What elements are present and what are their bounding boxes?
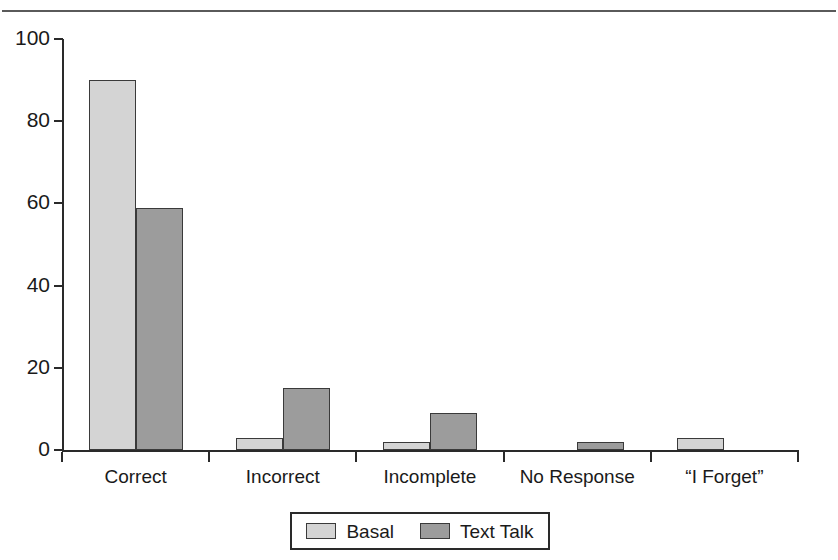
bar-basal-incorrect xyxy=(236,438,283,450)
x-axis-category-label: Incomplete xyxy=(356,466,503,488)
legend-entry-basal: Basal xyxy=(306,522,394,541)
bar-basal-i-forget xyxy=(677,438,724,450)
legend-entry-text-talk: Text Talk xyxy=(420,522,534,541)
legend-label-basal: Basal xyxy=(346,522,394,541)
y-axis-tick xyxy=(54,202,63,204)
y-axis-line xyxy=(62,39,64,451)
x-axis-tick xyxy=(650,452,652,462)
x-axis-tick xyxy=(61,452,63,462)
y-axis-tick xyxy=(54,120,63,122)
x-axis-category-label: Correct xyxy=(62,466,209,488)
y-axis-tick xyxy=(54,38,63,40)
x-axis-tick xyxy=(503,452,505,462)
legend-swatch-text-talk xyxy=(420,523,450,539)
y-axis-tick-label: 80 xyxy=(4,109,50,130)
bar-text-talk-incorrect xyxy=(283,388,330,450)
x-axis-tick xyxy=(797,452,799,462)
x-axis-category-label: Incorrect xyxy=(209,466,356,488)
bar-chart-plot-area: 020406080100 CorrectIncorrectIncompleteN… xyxy=(0,0,838,470)
bar-text-talk-no-response xyxy=(577,442,624,450)
y-axis-tick xyxy=(54,285,63,287)
x-axis-tick xyxy=(355,452,357,462)
y-axis-tick xyxy=(54,449,63,451)
y-axis-tick-label: 20 xyxy=(4,356,50,377)
legend-swatch-basal xyxy=(306,523,336,539)
y-axis-tick-label: 60 xyxy=(4,191,50,212)
y-axis-tick-label: 0 xyxy=(4,438,50,459)
y-axis-tick-label: 100 xyxy=(4,27,50,48)
chart-legend: Basal Text Talk xyxy=(290,512,550,550)
bar-text-talk-incomplete xyxy=(430,413,477,450)
bar-text-talk-correct xyxy=(136,208,183,450)
x-axis-line xyxy=(62,450,799,452)
y-axis-tick xyxy=(54,367,63,369)
bar-basal-incomplete xyxy=(383,442,430,450)
y-axis-tick-label: 40 xyxy=(4,274,50,295)
x-axis-tick xyxy=(208,452,210,462)
x-axis-category-label: “I Forget” xyxy=(651,466,798,488)
legend-label-text-talk: Text Talk xyxy=(460,522,534,541)
bar-basal-correct xyxy=(89,80,136,450)
x-axis-category-label: No Response xyxy=(504,466,651,488)
figure-canvas: 020406080100 CorrectIncorrectIncompleteN… xyxy=(0,0,838,560)
